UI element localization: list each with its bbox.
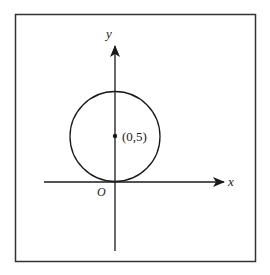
center-point [113, 134, 117, 138]
x-axis-label: x [227, 174, 234, 189]
origin-label: O [97, 185, 106, 199]
y-axis-label: y [104, 26, 112, 41]
coordinate-diagram: y x O (0,5) [0, 0, 270, 275]
center-label: (0,5) [122, 129, 147, 144]
